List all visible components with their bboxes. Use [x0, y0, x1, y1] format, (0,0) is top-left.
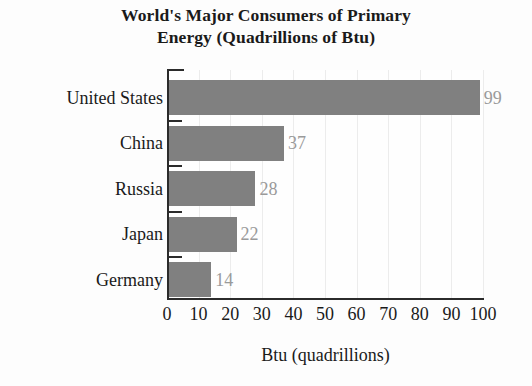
category-label-russia: Russia — [0, 179, 167, 199]
category-label-united-states: United States — [0, 88, 167, 108]
category-label-china: China — [0, 133, 167, 153]
y-axis-category-labels: United StatesChinaRussiaJapanGermany — [0, 0, 532, 386]
x-axis-title: Btu (quadrillions) — [167, 345, 484, 366]
category-label-germany: Germany — [0, 270, 167, 290]
x-tick-label-100: 100 — [463, 303, 503, 325]
bar-chart-figure: World's Major Consumers of Primary Energ… — [0, 0, 532, 386]
category-label-japan: Japan — [0, 224, 167, 244]
